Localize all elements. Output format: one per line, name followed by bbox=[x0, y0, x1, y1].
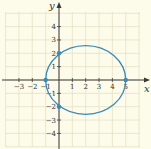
ellipse-graph: x y −3−2−1123454321−1−2−3−4 bbox=[0, 0, 151, 149]
y-tick-label: 2 bbox=[52, 50, 56, 58]
x-tick-label: 1 bbox=[70, 83, 74, 91]
intercept-point bbox=[124, 78, 128, 82]
plot-background bbox=[0, 0, 151, 149]
y-tick-label: 3 bbox=[52, 36, 56, 44]
intercept-point bbox=[43, 78, 47, 82]
x-tick-label: 2 bbox=[83, 83, 87, 91]
y-axis-label: y bbox=[48, 0, 55, 11]
x-axis-label: x bbox=[144, 83, 150, 94]
y-tick-label: −2 bbox=[46, 103, 56, 111]
x-tick-label: −3 bbox=[14, 83, 24, 91]
x-tick-label: 3 bbox=[97, 83, 101, 91]
x-tick-label: 4 bbox=[110, 83, 115, 91]
intercept-point bbox=[57, 51, 61, 55]
y-tick-label: −3 bbox=[46, 117, 56, 125]
x-tick-label: −2 bbox=[27, 83, 37, 91]
y-tick-label: −4 bbox=[46, 130, 57, 138]
intercept-point bbox=[57, 105, 61, 109]
y-tick-label: 1 bbox=[52, 63, 56, 71]
y-tick-label: 4 bbox=[52, 23, 57, 31]
